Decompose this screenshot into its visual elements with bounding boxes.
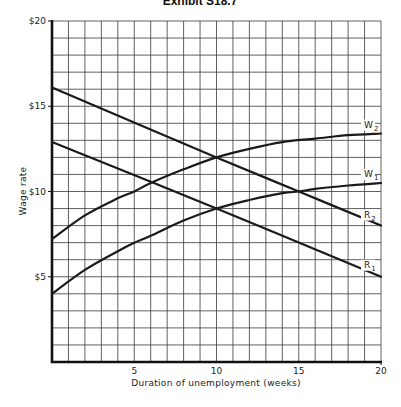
y-tick-label: $15 (29, 101, 46, 111)
wage-rate-chart: Exhibit S18.7 $5$10$15$20 5101520 W2W1R2… (0, 0, 401, 407)
x-axis-tick-labels: 5101520 (131, 366, 387, 376)
x-tick-label: 15 (293, 366, 304, 376)
curve-label-w2: W2 (364, 120, 378, 133)
chart-title: Exhibit S18.7 (163, 0, 238, 8)
x-tick-label: 10 (211, 366, 223, 376)
y-tick-label: $5 (35, 272, 46, 282)
x-tick-label: 20 (375, 366, 387, 376)
curve-labels: W2W1R2R1 (361, 120, 378, 273)
y-axis-label: Wage rate (18, 166, 28, 215)
x-tick-label: 5 (131, 366, 137, 376)
y-tick-label: $10 (29, 187, 46, 197)
y-axis-tick-labels: $5$10$15$20 (29, 16, 52, 282)
grid-lines (52, 21, 381, 362)
curve-label-w1: W1 (364, 169, 378, 182)
x-axis-label: Duration of unemployment (weeks) (131, 378, 301, 388)
y-tick-label: $20 (29, 16, 46, 26)
